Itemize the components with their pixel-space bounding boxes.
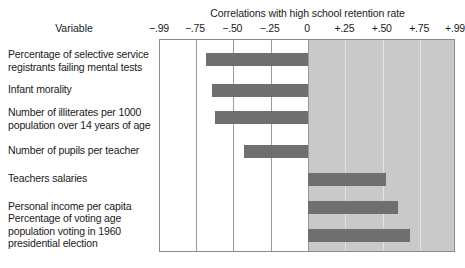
variable-label: Number of pupils per teacher	[8, 144, 156, 157]
variable-label-line: Percentage of voting age	[8, 212, 156, 225]
x-tick-label: +.50	[372, 22, 392, 34]
x-tick-label: +.75	[409, 22, 429, 34]
variable-label-line: population voting in 1960	[8, 225, 156, 238]
x-tick-label: −.99	[149, 22, 169, 34]
bar	[244, 145, 308, 158]
variable-label-line: Personal income per capita	[8, 200, 156, 213]
bar	[206, 53, 308, 66]
plot-area	[159, 39, 455, 252]
variable-label-line: population over 14 years of age	[8, 119, 156, 132]
bar	[308, 173, 386, 186]
gridline	[233, 40, 234, 251]
variable-label: Percentage of voting agepopulation votin…	[8, 212, 156, 250]
variable-label-line: Percentage of selective service	[8, 48, 156, 61]
gridline	[308, 40, 309, 251]
variable-label-line: Teachers salaries	[8, 172, 156, 185]
variable-label-line: presidential election	[8, 237, 156, 250]
variable-label-line: Number of illiterates per 1000	[8, 106, 156, 119]
bar	[308, 229, 410, 242]
gridline	[420, 40, 421, 251]
variable-label: Teachers salaries	[8, 172, 156, 185]
variable-label: Personal income per capita	[8, 200, 156, 213]
variable-label-line: Number of pupils per teacher	[8, 144, 156, 157]
positive-region-shading	[308, 40, 454, 251]
x-tick-label: +.99	[445, 22, 465, 34]
variable-label: Infant morality	[8, 83, 156, 96]
x-tick-label: −.50	[222, 22, 242, 34]
chart-title: Correlations with high school retention …	[159, 7, 456, 19]
gridline	[383, 40, 384, 251]
x-tick-label: 0	[304, 22, 310, 34]
x-tick-label: −.75	[185, 22, 205, 34]
x-tick-label: +.25	[334, 22, 354, 34]
variable-label: Number of illiterates per 1000population…	[8, 106, 156, 131]
bar	[212, 84, 308, 97]
bar	[308, 201, 398, 214]
correlation-bar-chart: Correlations with high school retention …	[0, 0, 465, 268]
gridline	[196, 40, 197, 251]
variable-label: Percentage of selective serviceregistran…	[8, 48, 156, 73]
variable-label-line: registrants failing mental tests	[8, 61, 156, 74]
variable-column-header: Variable	[0, 22, 148, 34]
variable-label-line: Infant morality	[8, 83, 156, 96]
gridline	[345, 40, 346, 251]
bar	[215, 111, 308, 124]
x-tick-label: −.25	[260, 22, 280, 34]
